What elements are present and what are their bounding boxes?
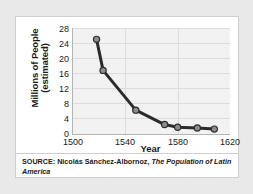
source-author: Nicolás Sánchez-Albornoz, (57, 157, 149, 166)
data-series-population (73, 28, 230, 134)
data-point (161, 121, 167, 127)
page-root: Millions of People (estimated) 0 4 8 12 … (0, 0, 253, 194)
y-tick-label-4: 4 (64, 114, 69, 124)
chart-figure: Millions of People (estimated) 0 4 8 12 … (16, 17, 238, 153)
source-note: SOURCE: Nicolás Sánchez-Albornoz, The Po… (22, 157, 232, 176)
data-point (133, 107, 139, 113)
y-tick-label-24: 24 (59, 39, 69, 49)
y-axis-title-line-2: (estimated) (40, 43, 51, 93)
plot-area: 0 4 8 12 16 20 24 28 1500 1540 1580 1620 (72, 28, 230, 135)
data-point (211, 126, 217, 132)
data-point (175, 124, 181, 130)
y-tick-label-12: 12 (59, 84, 69, 94)
y-axis-title: Millions of People (estimated) (25, 16, 55, 120)
chart-card: Millions of People (estimated) 0 4 8 12 … (15, 16, 239, 178)
source-label: SOURCE: (22, 157, 55, 166)
data-point (93, 36, 99, 42)
data-point (100, 67, 106, 73)
y-tick-label-16: 16 (59, 69, 69, 79)
source-divider (16, 153, 238, 154)
series-line (97, 39, 215, 129)
data-point (194, 125, 200, 131)
y-tick-label-20: 20 (59, 54, 69, 64)
series-markers (93, 36, 217, 132)
y-tick-label-8: 8 (64, 99, 69, 109)
y-tick-label-28: 28 (59, 24, 69, 34)
